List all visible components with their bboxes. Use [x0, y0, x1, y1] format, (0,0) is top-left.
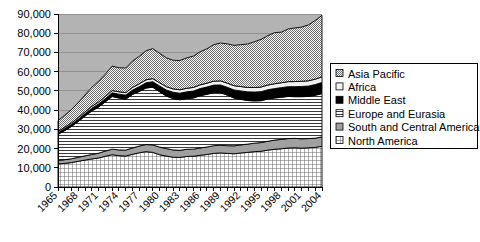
stacked-area-chart: 010,00020,00030,00040,00050,00060,00070,… [0, 0, 480, 242]
y-axis-label: 40,000 [17, 104, 51, 116]
legend-swatch-north-america [336, 137, 343, 144]
y-axis-label: 90,000 [17, 8, 51, 20]
y-axis-label: 70,000 [17, 46, 51, 58]
legend-swatch-asia-pacific [336, 70, 343, 77]
legend-label: South and Central America [348, 121, 480, 133]
legend-label: North America [348, 135, 419, 147]
legend-label: Asia Pacific [348, 68, 405, 80]
legend-swatch-middle-east [336, 96, 343, 103]
y-axis-label: 20,000 [17, 143, 51, 155]
legend-label: Middle East [348, 94, 405, 106]
legend-label: Africa [348, 81, 377, 93]
legend-swatch-africa [336, 83, 343, 90]
y-axis-label: 30,000 [17, 123, 51, 135]
y-axis-label: 10,000 [17, 162, 51, 174]
chart-canvas: 010,00020,00030,00040,00050,00060,00070,… [0, 0, 480, 242]
y-axis-label: 80,000 [17, 27, 51, 39]
y-axis-label: 50,000 [17, 85, 51, 97]
legend-label: Europe and Eurasia [348, 108, 446, 120]
legend-item[interactable]: South and Central America [336, 121, 480, 133]
legend-item[interactable]: North America [336, 135, 419, 147]
legend-item[interactable]: Europe and Eurasia [336, 108, 446, 120]
legend-swatch-south-and-central-america [336, 123, 343, 130]
chart-legend: Asia PacificAfricaMiddle EastEurope and … [330, 63, 480, 148]
legend-swatch-europe-and-eurasia [336, 110, 343, 117]
y-axis-label: 60,000 [17, 66, 51, 78]
